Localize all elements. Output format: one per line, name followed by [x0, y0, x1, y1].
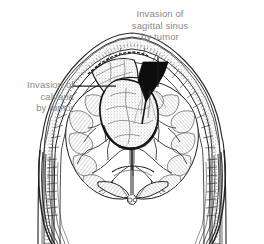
label-calvaria-line3: by tumor [2, 102, 74, 114]
label-calvaria-line2: calvaria [2, 91, 74, 103]
midline-loop-right [133, 198, 137, 202]
label-sagittal-line3: by tumor [104, 31, 216, 43]
midline-loop-left [128, 198, 132, 202]
label-sagittal-line1: Invasion of [104, 8, 216, 20]
label-calvaria: Invasion of calvaria by tumor [2, 79, 74, 114]
label-sagittal-line2: sagittal sinus [104, 20, 216, 32]
label-calvaria-line1: Invasion of [2, 79, 74, 91]
label-sagittal-sinus: Invasion of sagittal sinus by tumor [104, 8, 216, 43]
